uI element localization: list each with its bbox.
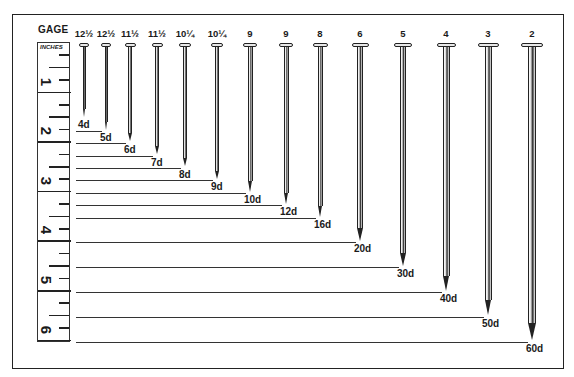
ruler-tick	[59, 154, 69, 156]
ruler-inch-number: 4	[39, 223, 53, 237]
ruler-tick	[49, 166, 69, 168]
ruler-tick	[59, 104, 69, 106]
nail-4d	[79, 43, 89, 117]
gage-title: GAGE	[38, 24, 68, 35]
ruler-inch-line	[38, 240, 71, 242]
length-reference-line	[76, 193, 246, 194]
gage-label: 3	[485, 28, 490, 39]
gage-label: 12½	[75, 28, 94, 39]
length-reference-line	[76, 168, 181, 169]
nail-50d	[478, 43, 499, 316]
nail-shank	[528, 47, 536, 323]
ruler-inch-line	[38, 340, 71, 342]
nail-shank	[215, 47, 219, 171]
gage-label: 5	[400, 28, 405, 39]
gage-label: 8	[317, 28, 322, 39]
ruler-tick	[59, 228, 69, 230]
nail-shank	[284, 47, 289, 193]
nail-7d	[152, 43, 163, 155]
ruler-inch-number: 5	[39, 273, 53, 287]
nail-point	[318, 206, 322, 217]
gage-label: 9	[283, 28, 288, 39]
nail-point	[528, 323, 536, 340]
gage-label: 11½	[148, 28, 166, 39]
nail-point	[128, 133, 132, 141]
nail-point	[443, 276, 449, 291]
nail-size-label: 4d	[78, 119, 90, 130]
nail-shank	[128, 47, 132, 133]
ruler-inch-number: 3	[39, 174, 53, 188]
ruler-tick	[49, 315, 69, 317]
nail-size-label: 6d	[124, 144, 136, 155]
nail-16d	[313, 43, 328, 217]
ruler-tick	[49, 67, 69, 69]
length-reference-line	[76, 292, 442, 293]
ruler-tick	[59, 178, 69, 180]
nail-point	[183, 158, 187, 166]
nail-point	[83, 109, 85, 117]
nail-shank	[248, 47, 253, 181]
nail-point	[248, 181, 252, 192]
nail-point	[155, 146, 159, 154]
ruler-tick	[59, 302, 69, 304]
gage-label: 2	[529, 28, 534, 39]
nail-5d	[101, 43, 111, 130]
nail-20d	[352, 43, 369, 241]
nail-size-label: 30d	[397, 268, 414, 279]
nail-shank	[443, 47, 450, 276]
ruler-inch-line	[38, 92, 71, 94]
ruler-tick	[59, 79, 69, 81]
length-reference-line	[76, 267, 399, 268]
nail-size-label: 7d	[151, 157, 163, 168]
ruler-tick	[59, 203, 69, 205]
ruler-unit-label: INCHES	[40, 44, 63, 50]
ruler-tick	[49, 265, 69, 267]
nail-40d	[437, 43, 456, 291]
gage-label: 11½	[121, 28, 139, 39]
nail-shank	[357, 47, 363, 228]
length-reference-line	[76, 205, 282, 206]
nail-point	[400, 253, 406, 266]
ruler-tick	[59, 253, 69, 255]
length-reference-line	[76, 131, 102, 132]
gage-label: 12½	[97, 28, 116, 39]
length-reference-line	[76, 242, 356, 243]
ruler-inch-line	[38, 141, 71, 143]
ruler-tick	[59, 129, 69, 131]
nail-shank	[318, 47, 323, 206]
nail-shank	[400, 47, 406, 253]
nail-30d	[394, 43, 412, 266]
nail-6d	[125, 43, 136, 142]
length-reference-line	[76, 180, 213, 181]
ruler-inch-line	[38, 191, 71, 193]
gage-label: 10¼	[176, 28, 195, 39]
nail-size-label: 50d	[482, 318, 499, 329]
nail-size-label: 40d	[440, 293, 457, 304]
ruler-inch-number: 1	[39, 75, 53, 89]
inch-ruler: INCHES 123456	[37, 42, 70, 342]
nail-size-label: 9d	[211, 181, 223, 192]
nail-12d	[279, 43, 293, 204]
nail-shank	[105, 47, 108, 122]
gage-label: 10¼	[208, 28, 227, 39]
nail-8d	[179, 43, 191, 167]
nail-point	[105, 122, 107, 130]
ruler-inch-number: 6	[39, 323, 53, 337]
nail-shank	[183, 47, 187, 158]
length-reference-line	[76, 156, 153, 157]
nail-size-label: 20d	[354, 243, 371, 254]
gage-label: 9	[247, 28, 252, 39]
nail-point	[284, 193, 288, 204]
ruler-tick	[49, 116, 69, 118]
nail-size-label: 16d	[314, 219, 331, 230]
nail-shank	[155, 47, 159, 146]
nail-point	[485, 300, 491, 315]
length-reference-line	[76, 143, 126, 144]
ruler-tick	[49, 216, 69, 218]
ruler-tick	[59, 54, 69, 56]
nail-size-label: 10d	[244, 194, 261, 205]
ruler-inch-number: 2	[39, 124, 53, 138]
ruler-tick	[59, 327, 69, 329]
ruler-tick	[59, 278, 69, 280]
nail-shank	[485, 47, 492, 300]
